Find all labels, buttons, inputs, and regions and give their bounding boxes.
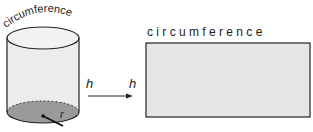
height-label-rectangle: h bbox=[129, 76, 136, 91]
cylinder-top bbox=[7, 27, 79, 49]
circumference-label-curved: circumference bbox=[0, 2, 74, 30]
cylinder bbox=[7, 27, 79, 126]
arrow-icon bbox=[88, 94, 133, 99]
height-label-cylinder: h bbox=[86, 76, 93, 91]
unrolled-rectangle bbox=[146, 43, 310, 117]
circumference-label-rectangle: c i r c u m f e r e n c e bbox=[147, 25, 263, 39]
cylinder-unrolling-diagram: circumference r h h c i r c u m f e r e … bbox=[0, 0, 313, 132]
